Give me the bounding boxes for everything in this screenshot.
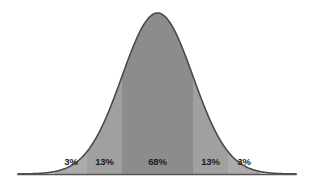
band-label-3-percent-left: 3% xyxy=(64,157,77,167)
band-label-3-percent-right: 3% xyxy=(237,157,250,167)
shaded-bands-group xyxy=(18,0,296,174)
tail-band-right xyxy=(260,0,296,174)
bell-curve-chart: 3% 13% 68% 13% 3% xyxy=(0,0,314,189)
band-label-13-percent-right: 13% xyxy=(201,157,219,167)
band-label-68-percent-center: 68% xyxy=(148,157,166,167)
band-region-3-percent-right xyxy=(228,0,260,174)
band-region-13-percent-right xyxy=(193,0,228,174)
band-region-3-percent-left xyxy=(55,0,87,174)
band-region-13-percent-left xyxy=(87,0,122,174)
tail-band-left xyxy=(18,0,55,174)
band-region-68-percent-center xyxy=(122,0,193,174)
band-label-13-percent-left: 13% xyxy=(95,157,113,167)
